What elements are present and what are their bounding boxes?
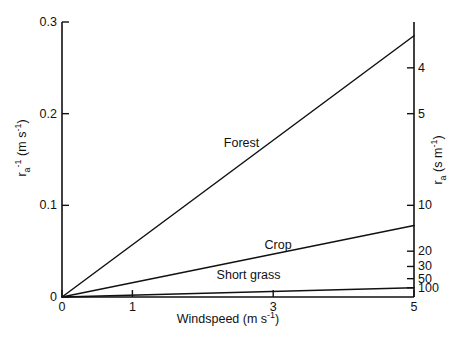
- left-tick-label-0.1: 0.1: [40, 199, 57, 212]
- y-right-unit-exponent: -1: [429, 140, 439, 148]
- left-tick-label-0: 0: [50, 291, 57, 304]
- y-left-unit-close: ): [15, 119, 29, 123]
- right-tick-label-5: 5: [418, 107, 425, 120]
- right-axis-ticks: [407, 68, 414, 288]
- series-label-short-grass: Short grass: [217, 268, 281, 282]
- series-line-forest: [62, 36, 414, 297]
- right-tick-label-10: 10: [418, 199, 432, 212]
- series-line-crop: [62, 226, 414, 298]
- right-tick-label-100: 100: [418, 282, 439, 295]
- bottom-tick-label-1: 1: [129, 301, 136, 314]
- series-label-crop: Crop: [265, 238, 292, 252]
- y-left-exponent: -1: [13, 159, 23, 167]
- y-left-unit-exponent: -1: [13, 124, 23, 132]
- x-axis-title: Windspeed (m s-1): [177, 312, 280, 326]
- y-left-symbol: r: [15, 172, 29, 176]
- series-lines-group: [62, 36, 414, 297]
- figure-canvas: 00.10.20.3 4510203050100 0135 ForestCrop…: [0, 0, 453, 338]
- x-axis-title-text: Windspeed (m s: [177, 312, 267, 326]
- bottom-tick-label-0: 0: [59, 301, 66, 314]
- series-line-short-grass: [62, 288, 414, 297]
- y-left-unit-open: (m s: [15, 132, 29, 160]
- y-right-symbol: r: [431, 180, 445, 184]
- left-tick-label-0.3: 0.3: [40, 16, 57, 29]
- y-right-unit-close: ): [431, 135, 445, 139]
- right-tick-label-4: 4: [418, 62, 425, 75]
- y-right-unit-open: (s m: [431, 148, 445, 176]
- series-label-forest: Forest: [224, 136, 259, 150]
- x-axis-title-close: ): [275, 312, 279, 326]
- chart-plot-area: [0, 0, 453, 338]
- left-axis-ticks: [62, 22, 69, 297]
- right-tick-label-20: 20: [418, 245, 432, 258]
- y-axis-title-left: ra-1 (m s-1): [15, 119, 29, 176]
- left-tick-label-0.2: 0.2: [40, 107, 57, 120]
- y-left-subscript: a: [22, 167, 32, 172]
- y-axis-title-right: ra (s m-1): [431, 135, 445, 184]
- bottom-tick-label-5: 5: [411, 301, 418, 314]
- y-right-subscript: a: [438, 175, 448, 180]
